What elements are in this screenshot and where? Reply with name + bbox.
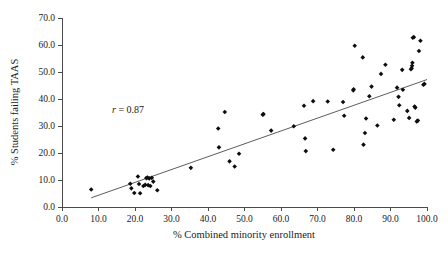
x-axis-tick-labels: 0.010.020.030.040.050.060.070.080.090.01… [56,214,438,224]
x-axis-title: % Combined minority enrollment [173,229,315,240]
x-tick-label: 40.0 [200,214,217,224]
x-axis-ticks [62,207,427,211]
data-point [383,62,388,67]
y-tick-label: 70.0 [38,13,55,23]
data-point [400,68,405,73]
plot-canvas: 0.010.020.030.040.050.060.070.0 0.010.02… [0,0,448,253]
data-point [303,136,308,141]
x-tick-label: 80.0 [346,214,363,224]
x-tick-label: 30.0 [163,214,180,224]
data-point [227,159,232,164]
data-point [137,182,142,187]
data-point [136,174,141,179]
correlation-annotation: r = 0.87 [112,104,144,115]
y-tick-label: 20.0 [38,148,55,158]
data-point [217,145,222,150]
data-point [237,152,242,157]
data-point [397,103,402,108]
data-point [155,188,160,193]
data-point [138,191,143,196]
y-tick-label: 50.0 [38,67,55,77]
data-point [418,38,423,43]
y-tick-label: 30.0 [38,121,55,131]
x-tick-label: 10.0 [90,214,107,224]
x-tick-label: 60.0 [273,214,290,224]
data-point [129,186,134,191]
data-point [369,84,374,89]
data-point [396,95,401,100]
y-tick-label: 40.0 [38,94,55,104]
y-tick-label: 10.0 [38,175,55,185]
data-point [132,191,137,196]
data-point [222,110,227,115]
data-point [325,99,330,104]
data-point [232,164,237,169]
x-tick-label: 100.0 [416,214,438,224]
y-axis-tick-labels: 0.010.020.030.040.050.060.070.0 [38,13,55,212]
data-point [361,142,366,147]
data-point [304,149,309,154]
x-tick-label: 90.0 [382,214,399,224]
data-point [291,124,296,129]
data-point [89,187,94,192]
data-point [302,103,307,108]
x-tick-label: 20.0 [127,214,144,224]
x-tick-label: 0.0 [56,214,68,224]
data-point [269,128,274,133]
y-tick-label: 0.0 [43,202,55,212]
data-point [379,72,384,77]
data-point [151,179,156,184]
data-point [410,61,415,66]
data-point [367,94,372,99]
data-points [89,35,427,196]
data-point [391,117,396,122]
correlation-value: = 0.87 [116,104,144,115]
data-point [342,113,347,118]
data-point [407,116,412,121]
y-axis-ticks [58,18,62,207]
data-point [363,131,368,136]
x-tick-label: 70.0 [309,214,326,224]
data-point [311,99,316,104]
x-tick-label: 50.0 [236,214,253,224]
data-point [341,100,346,105]
data-point [331,147,336,152]
y-tick-label: 60.0 [38,40,55,50]
data-point [405,109,410,114]
data-point [352,44,357,49]
data-point [216,126,221,131]
regression-trendline [91,80,427,198]
scatter-plot-figure: 0.010.020.030.040.050.060.070.0 0.010.02… [0,0,448,253]
data-point [128,181,133,186]
data-point [364,116,369,121]
data-point [375,123,380,128]
y-axis-title: % Students failing TAAS [9,59,20,166]
data-point [189,166,194,171]
data-point [417,49,422,54]
data-point [360,55,365,60]
